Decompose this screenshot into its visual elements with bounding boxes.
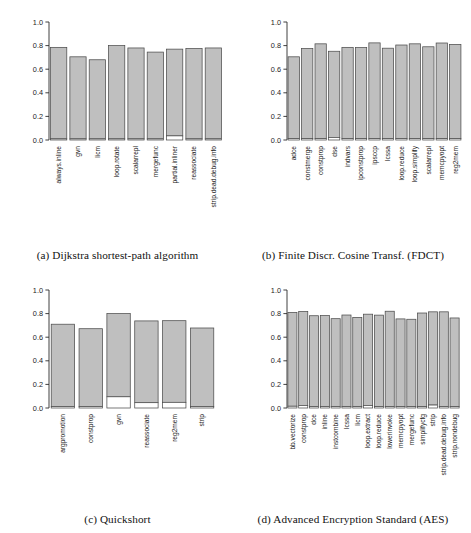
bar-segment-total bbox=[382, 48, 393, 138]
bar-chart-a: 0.00.20.40.60.81.0always.inlinegvnlicmlo… bbox=[0, 0, 235, 266]
x-axis-label: dse bbox=[331, 146, 338, 157]
y-tick-label: 0.2 bbox=[271, 112, 281, 121]
bar-segment-total bbox=[342, 315, 351, 407]
x-axis-label: constprop bbox=[300, 414, 308, 443]
bar-segment-base bbox=[309, 407, 318, 408]
x-axis-label: ipsccp bbox=[371, 146, 379, 165]
y-tick-label: 0.0 bbox=[33, 136, 43, 145]
bar-segment-total bbox=[167, 49, 183, 136]
bar-segment-total bbox=[436, 43, 447, 139]
caption-b: (b) Finite Discr. Cosine Transf. (FDCT) bbox=[235, 249, 471, 261]
bar-segment-base bbox=[163, 402, 186, 408]
bar-segment-base bbox=[374, 407, 383, 408]
x-axis-label: scalarrepl bbox=[132, 145, 140, 174]
bar-segment-base bbox=[190, 407, 213, 408]
y-tick-label: 0.4 bbox=[33, 88, 43, 97]
bar-segment-base bbox=[205, 139, 221, 140]
bar-segment-total bbox=[353, 317, 362, 406]
y-tick-label: 1.0 bbox=[33, 286, 43, 295]
panel-b: 0.00.20.40.60.81.0adceconstmergeconstpro… bbox=[235, 0, 471, 266]
x-axis-label: adce bbox=[290, 146, 297, 161]
y-tick-label: 0.6 bbox=[271, 333, 281, 342]
x-axis-label: strip bbox=[198, 414, 206, 427]
bar-segment-total bbox=[309, 316, 318, 407]
bar-segment-base bbox=[186, 139, 202, 140]
x-axis-label: bb.vectorize bbox=[289, 414, 296, 450]
bar-chart-d: 0.00.20.40.60.81.0bb.vectorizeconstpropd… bbox=[235, 266, 471, 533]
x-axis-label: always.inline bbox=[55, 146, 63, 184]
bar-segment-base bbox=[51, 407, 74, 408]
bar-segment-total bbox=[428, 312, 437, 405]
bar-segment-base bbox=[128, 139, 144, 140]
bar-segment-total bbox=[418, 313, 427, 407]
x-axis-label: reassociate bbox=[143, 414, 150, 448]
bar-segment-base bbox=[439, 407, 448, 408]
x-axis-label: mergefunc bbox=[408, 413, 416, 445]
x-axis-label: strip.dead.debug.info bbox=[210, 146, 218, 208]
bar-segment-base bbox=[315, 139, 326, 140]
bar-segment-base bbox=[409, 139, 420, 140]
x-axis-label: reg2mem bbox=[171, 414, 179, 442]
bar-segment-base bbox=[147, 139, 163, 140]
bar-segment-base bbox=[288, 406, 297, 408]
bar-segment-base bbox=[385, 407, 394, 408]
bar-segment-base bbox=[89, 139, 105, 140]
bar-segment-total bbox=[374, 315, 383, 406]
bar-segment-base bbox=[396, 407, 405, 408]
bar-segment-total bbox=[423, 47, 434, 139]
bar-segment-total bbox=[315, 44, 326, 139]
x-axis-label: reg2mem bbox=[452, 146, 460, 174]
bar-segment-total bbox=[331, 319, 340, 407]
bar-segment-total bbox=[51, 324, 74, 406]
bar-segment-base bbox=[302, 139, 313, 140]
bar-segment-base bbox=[407, 407, 416, 408]
chart-c: 0.00.20.40.60.81.0argpromotionconstpropg… bbox=[0, 266, 235, 533]
y-tick-label: 0.6 bbox=[271, 65, 281, 74]
figure-grid: 0.00.20.40.60.81.0always.inlinegvnlicmlo… bbox=[0, 0, 471, 533]
bar-segment-total bbox=[147, 52, 163, 139]
bar-segment-total bbox=[70, 57, 86, 139]
bar-segment-base bbox=[331, 407, 340, 408]
x-axis-label: simplifycfg bbox=[419, 414, 427, 445]
y-tick-label: 0.8 bbox=[271, 41, 281, 50]
bar-segment-total bbox=[51, 47, 67, 138]
bar-segment-total bbox=[288, 57, 299, 139]
y-tick-label: 0.4 bbox=[271, 356, 281, 365]
caption-a: (a) Dijkstra shortest-path algorithm bbox=[0, 249, 235, 261]
bar-segment-total bbox=[450, 318, 459, 407]
x-axis-label: gvn bbox=[115, 414, 123, 425]
bar-segment-total bbox=[364, 314, 373, 405]
bar-segment-base bbox=[450, 407, 459, 408]
bar-segment-total bbox=[396, 319, 405, 407]
bar-segment-base bbox=[428, 405, 437, 408]
x-axis-label: ipconstprop bbox=[357, 146, 365, 180]
y-tick-label: 1.0 bbox=[271, 18, 281, 27]
y-tick-label: 0.2 bbox=[271, 380, 281, 389]
panel-c: 0.00.20.40.60.81.0argpromotionconstpropg… bbox=[0, 266, 235, 533]
chart-a: 0.00.20.40.60.81.0always.inlinegvnlicmlo… bbox=[0, 0, 235, 266]
y-tick-label: 0.0 bbox=[271, 136, 281, 145]
chart-d: 0.00.20.40.60.81.0bb.vectorizeconstpropd… bbox=[235, 266, 471, 533]
bar-segment-base bbox=[79, 407, 102, 408]
bar-segment-base bbox=[369, 139, 380, 140]
bar-segment-total bbox=[89, 60, 105, 139]
y-tick-label: 0.4 bbox=[33, 356, 43, 365]
bar-segment-total bbox=[205, 48, 221, 139]
bar-segment-total bbox=[328, 51, 339, 137]
bar-segment-total bbox=[385, 311, 394, 406]
bar-segment-base bbox=[167, 136, 183, 140]
bar-segment-total bbox=[107, 314, 130, 397]
x-axis-label: scalarrepl bbox=[425, 145, 433, 174]
panel-d: 0.00.20.40.60.81.0bb.vectorizeconstpropd… bbox=[235, 266, 471, 533]
y-tick-label: 0.2 bbox=[33, 112, 43, 121]
caption-c: (c) Quickshort bbox=[0, 513, 235, 525]
bar-segment-base bbox=[107, 397, 130, 408]
x-axis-label: constprop bbox=[317, 146, 325, 175]
y-tick-label: 0.8 bbox=[33, 41, 43, 50]
bar-segment-base bbox=[299, 405, 308, 408]
x-axis-label: instcombine bbox=[332, 414, 339, 450]
caption-d: (d) Advanced Encryption Standard (AES) bbox=[235, 513, 471, 525]
bar-segment-total bbox=[288, 312, 297, 406]
bar-segment-total bbox=[450, 44, 461, 138]
bar-segment-total bbox=[396, 45, 407, 139]
